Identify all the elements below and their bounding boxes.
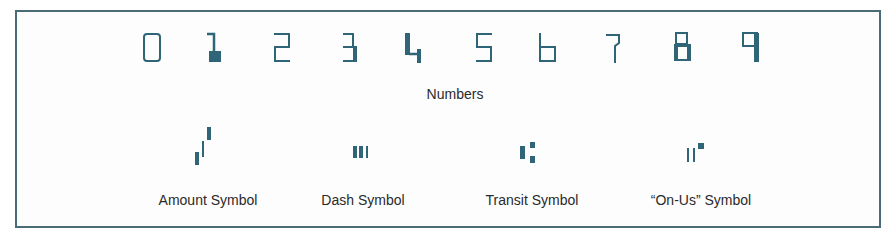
digit-3-glyph [341,33,361,63]
digit-1-glyph [205,33,225,63]
digit-2-glyph [273,33,293,63]
dash-symbol-label: Dash Symbol [321,192,404,208]
on-us-symbol-label: “On-Us” Symbol [651,192,751,208]
numbers-label: Numbers [427,86,484,102]
dash-symbol-glyph [352,146,374,160]
amount-symbol-label: Amount Symbol [159,192,258,208]
digit-8-glyph [673,32,693,63]
transit-symbol-label: Transit Symbol [486,192,579,208]
digit-6-glyph [538,33,558,63]
digit-9-glyph [742,32,762,63]
amount-symbol-glyph [193,124,213,168]
digit-7-glyph [605,33,625,63]
on-us-symbol-glyph [686,142,708,164]
transit-symbol-glyph [519,141,539,167]
digit-4-glyph [404,33,424,63]
digit-5-glyph [475,33,495,63]
digit-0-glyph [143,33,163,63]
